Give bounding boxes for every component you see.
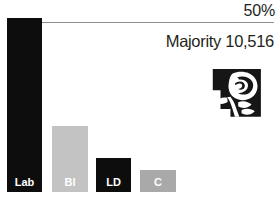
bar-lab: Lab <box>7 18 42 192</box>
bar-bl: Bl <box>52 126 88 192</box>
bar-c: C <box>140 170 176 192</box>
bar-chart: 50% Majority 10,516 Lab Bl <box>0 0 279 212</box>
bar-label-lab: Lab <box>15 177 35 192</box>
bar-label-ld: LD <box>106 177 121 192</box>
bar-ld: LD <box>96 158 131 192</box>
bar-label-c: C <box>154 177 162 192</box>
bars-layer: Lab Bl LD C <box>0 0 279 212</box>
bar-label-bl: Bl <box>65 177 76 192</box>
